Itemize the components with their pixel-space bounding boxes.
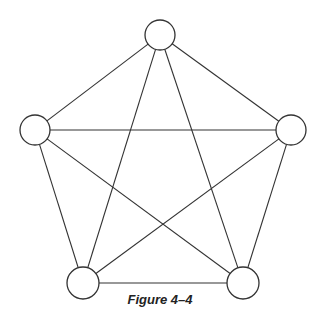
node-left xyxy=(20,115,50,145)
edge-right-bottom-right xyxy=(248,144,287,267)
edge-top-left xyxy=(47,44,148,121)
edge-bottom-right-left xyxy=(47,139,230,274)
edge-right-bottom-left xyxy=(96,139,279,274)
figure-caption: Figure 4–4 xyxy=(0,292,320,307)
figure-container: Figure 4–4 xyxy=(0,0,320,313)
node-right xyxy=(276,115,306,145)
edge-bottom-left-left xyxy=(39,144,78,267)
complete-graph-diagram xyxy=(0,0,320,313)
edge-top-bottom-right xyxy=(165,49,238,268)
node-top xyxy=(145,20,175,50)
edge-top-right xyxy=(172,44,279,121)
